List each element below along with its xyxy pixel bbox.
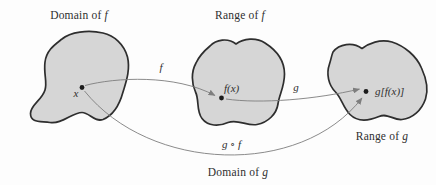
label-domain-of-g: Domain ofg [208, 166, 268, 179]
point-g-of-f-of-x [364, 89, 369, 94]
label-domain-of-f-text: Domain of [50, 9, 101, 21]
label-range-of-g-text: Range of [356, 130, 399, 143]
label-point-x: x [73, 87, 79, 99]
point-f-of-x [219, 96, 224, 101]
label-point-f-of-x: f(x) [224, 82, 240, 95]
label-range-of-g-symbol: g [402, 130, 408, 143]
label-domain-of-f: Domain off [50, 9, 109, 22]
composition-diagram-svg: Domain off Range off Range ofg Domain of… [0, 0, 436, 185]
label-arrow-g: g [293, 81, 299, 93]
function-composition-figure: Domain off Range off Range ofg Domain of… [0, 0, 436, 185]
label-arrow-g-of-f: g∘f [222, 138, 243, 150]
label-point-g-of-f-of-x: g[f(x)] [375, 85, 404, 98]
point-x [80, 85, 85, 90]
label-range-of-f-text: Range of [215, 9, 258, 22]
label-domain-of-g-symbol: g [262, 166, 268, 179]
label-g-of-f-left: g [222, 138, 228, 150]
label-domain-of-g-text: Domain of [208, 166, 259, 178]
label-g-of-f-operator: ∘ [230, 138, 235, 150]
